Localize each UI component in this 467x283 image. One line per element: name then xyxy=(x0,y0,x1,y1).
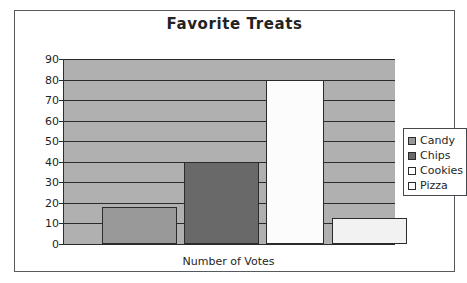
bar-chips[interactable] xyxy=(184,162,259,244)
x-axis-line xyxy=(63,244,395,245)
legend-label: Pizza xyxy=(420,178,448,193)
gridline xyxy=(64,100,395,101)
legend-swatch-icon xyxy=(408,137,416,145)
y-axis: 90 80 70 60 50 40 30 20 10 0 xyxy=(29,59,59,244)
bar-pizza[interactable] xyxy=(332,218,407,244)
gridline xyxy=(64,59,395,60)
y-tick-label: 90 xyxy=(33,54,59,65)
y-tick-label: 0 xyxy=(33,239,59,250)
y-tick-label: 50 xyxy=(33,136,59,147)
x-axis-title: Number of Votes xyxy=(63,255,394,268)
y-tick-label: 40 xyxy=(33,157,59,168)
y-tick-label: 10 xyxy=(33,218,59,229)
legend-item-chips[interactable]: Chips xyxy=(408,148,466,163)
legend-swatch-icon xyxy=(408,182,416,190)
gridline xyxy=(64,80,395,81)
y-tick-label: 30 xyxy=(33,177,59,188)
legend-swatch-icon xyxy=(408,152,416,160)
legend-swatch-icon xyxy=(408,167,416,175)
bar-candy[interactable] xyxy=(102,207,177,244)
gridline xyxy=(64,121,395,122)
legend-item-cookies[interactable]: Cookies xyxy=(408,163,466,178)
legend-item-candy[interactable]: Candy xyxy=(408,133,466,148)
chart-frame: Favorite Treats 90 80 70 60 50 40 30 20 … xyxy=(14,10,455,272)
plot-area xyxy=(63,59,395,244)
y-tick-label: 60 xyxy=(33,116,59,127)
chart-legend: Candy Chips Cookies Pizza xyxy=(403,128,467,196)
legend-label: Chips xyxy=(420,148,450,163)
y-tick-label: 80 xyxy=(33,75,59,86)
bar-cookies[interactable] xyxy=(266,80,324,244)
chart-title: Favorite Treats xyxy=(15,15,454,33)
y-tick-label: 70 xyxy=(33,95,59,106)
legend-label: Candy xyxy=(420,133,455,148)
legend-label: Cookies xyxy=(420,163,463,178)
legend-item-pizza[interactable]: Pizza xyxy=(408,178,466,193)
y-tick-label: 20 xyxy=(33,198,59,209)
gridline xyxy=(64,141,395,142)
